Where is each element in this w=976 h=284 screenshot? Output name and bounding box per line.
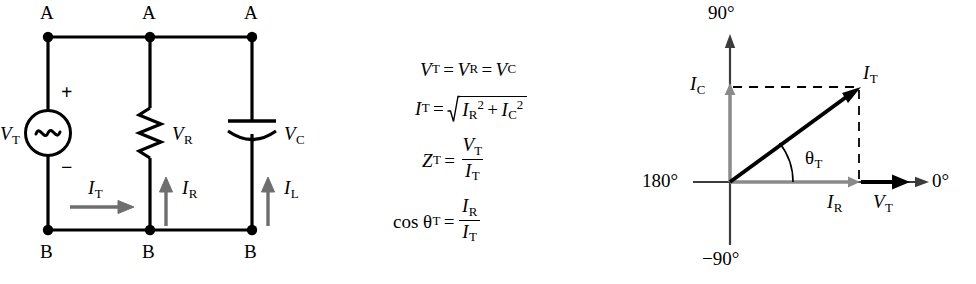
node-label-a1: A <box>40 3 54 22</box>
vertical-axis-arrowhead <box>725 34 735 48</box>
eq1-rhs-sub: C <box>507 63 516 76</box>
eq3-fraction: VT IT <box>459 135 485 183</box>
source-plus-sign: + <box>61 82 72 102</box>
phasor-svg <box>630 0 976 284</box>
resistor-current-subscript: R <box>188 186 197 201</box>
node-label-a2: A <box>142 3 156 22</box>
theta-subscript: T <box>814 156 822 171</box>
eq2-term-b-sup: 2 <box>517 97 523 112</box>
axis-label-0: 0° <box>932 171 949 190</box>
eq3-numerator: VT <box>459 135 485 159</box>
eq1-mid: V <box>457 60 469 79</box>
theta-angle-label: θT <box>805 148 822 171</box>
it-phasor-label: IT <box>863 63 878 86</box>
eq1-equals-2: = <box>478 60 496 79</box>
axis-label-90: 90° <box>708 3 735 22</box>
eq3-lhs: Z <box>422 151 433 170</box>
eq4-equals: = <box>440 212 458 231</box>
horizontal-axis-arrowhead <box>915 177 929 187</box>
resistor-voltage-subscript: R <box>184 132 193 147</box>
eq2-lhs-sub: T <box>421 102 429 115</box>
equation-voltage: VT = VR = VC <box>420 60 516 79</box>
eq3-den-sub: T <box>471 168 479 183</box>
total-current-subscript: T <box>94 186 102 201</box>
eq3-num-symbol: V <box>462 134 474 155</box>
eq2-plus: + <box>484 99 502 120</box>
source-voltage-label: VT <box>0 124 20 147</box>
source-minus-sign: − <box>61 157 72 177</box>
capacitor-voltage-subscript: C <box>296 132 305 147</box>
eq3-denominator: IT <box>462 159 483 184</box>
eq1-rhs: V <box>496 60 508 79</box>
eq4-denominator: IT <box>459 220 480 245</box>
source-voltage-subscript: T <box>12 132 20 147</box>
eq2-radicand: IR2+IC2 <box>460 96 527 122</box>
it-arrow-head <box>118 201 134 214</box>
node-label-a3: A <box>244 3 258 22</box>
resistor-icon <box>139 108 161 158</box>
axis-label-180: 180° <box>642 171 678 190</box>
eq1-lhs: V <box>420 60 432 79</box>
vt-phasor-symbol: V <box>873 191 885 212</box>
eq4-den-symbol: I <box>462 221 468 242</box>
node-dot-a2 <box>145 32 155 42</box>
eq4-theta-sub: T <box>432 215 440 228</box>
resistor-current-label: IR <box>182 178 197 201</box>
node-label-b3: B <box>244 242 257 261</box>
ic-phasor-arrowhead <box>725 83 736 95</box>
it-phasor-shaft <box>730 95 849 182</box>
eq3-equals: = <box>441 151 459 170</box>
total-current-label: IT <box>88 178 103 201</box>
eq3-num-sub: T <box>474 143 482 158</box>
equation-power-factor: cos θT = IR IT <box>393 197 481 245</box>
eq3-lhs-sub: T <box>433 154 441 167</box>
capacitor-current-label: IL <box>284 178 299 201</box>
ir-phasor-subscript: R <box>833 200 842 215</box>
ic-phasor-subscript: C <box>696 82 705 97</box>
eq1-lhs-sub: T <box>432 63 440 76</box>
theta-angle-arc <box>780 143 793 182</box>
radical-sign-icon <box>447 95 460 122</box>
figure-root: A A A B B B VT + − VR VC IT IR IL <box>0 0 976 284</box>
resistor-voltage-symbol: V <box>172 123 184 144</box>
ir-arrow-head <box>160 177 173 192</box>
eq4-cos: cos <box>393 212 418 231</box>
resistor-voltage-label: VR <box>172 124 193 147</box>
eq2-term-b: I <box>501 99 507 120</box>
source-voltage-symbol: V <box>0 123 12 144</box>
eq2-equals: = <box>430 99 448 118</box>
phasor-diagram: 90° 0° 180° −90° IT IC IR VT θT <box>630 0 976 284</box>
il-arrow-head <box>262 177 275 192</box>
eq2-term-b-sub: C <box>508 107 517 122</box>
ic-phasor-label: IC <box>690 74 705 97</box>
vt-phasor-subscript: T <box>885 200 893 215</box>
equation-total-current: IT = IR2+IC2 <box>415 95 527 122</box>
node-label-b2: B <box>142 242 155 261</box>
eq4-theta: θ <box>423 212 432 231</box>
eq4-fraction: IR IT <box>459 196 480 244</box>
capacitor-voltage-label: VC <box>284 124 305 147</box>
equations-block: VT = VR = VC IT = IR2+IC2 ZT <box>330 0 630 284</box>
eq4-num-sub: R <box>468 204 477 219</box>
it-phasor-subscript: T <box>869 71 877 86</box>
capacitor-voltage-symbol: V <box>284 123 296 144</box>
theta-symbol: θ <box>805 147 814 168</box>
vt-phasor-label: VT <box>873 192 893 215</box>
node-dot-b3 <box>247 225 257 235</box>
eq4-numerator: IR <box>459 196 480 220</box>
node-dot-b2 <box>145 225 155 235</box>
equation-impedance: ZT = VT IT <box>422 136 486 184</box>
eq2-term-a-sup: 2 <box>477 97 483 112</box>
axis-label-minus-90: −90° <box>702 249 739 268</box>
capacitor-current-subscript: L <box>290 186 298 201</box>
eq4-den-sub: T <box>469 229 477 244</box>
ir-phasor-label: IR <box>827 192 842 215</box>
eq2-radical: IR2+IC2 <box>447 95 527 122</box>
node-dot-b1 <box>43 225 53 235</box>
node-label-b1: B <box>40 242 53 261</box>
node-dot-a3 <box>247 32 257 42</box>
node-dot-a1 <box>43 32 53 42</box>
eq1-equals-1: = <box>440 60 458 79</box>
circuit-diagram: A A A B B B VT + − VR VC IT IR IL <box>0 0 330 284</box>
vt-phasor-arrowhead <box>892 175 910 190</box>
